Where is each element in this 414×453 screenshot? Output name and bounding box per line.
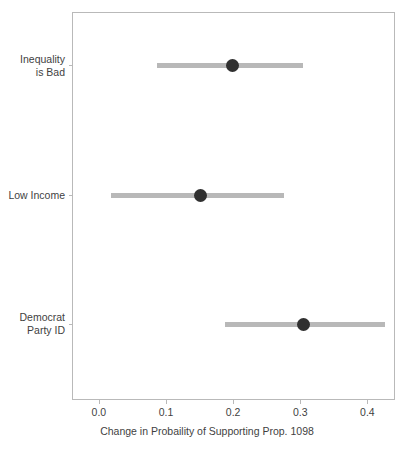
estimate-point — [297, 318, 310, 331]
y-tick-label: Inequalityis Bad — [20, 53, 65, 79]
x-tick-mark — [99, 400, 100, 404]
x-tick-label: 0.4 — [360, 406, 375, 419]
y-tick-label: DemocratParty ID — [19, 311, 65, 337]
x-tick-label: 0.1 — [159, 406, 174, 419]
y-tick-label: Low Income — [8, 189, 65, 202]
x-axis: 0.00.10.20.30.4 — [72, 400, 395, 426]
x-axis-title: Change in Probaility of Supporting Prop.… — [0, 425, 414, 437]
y-tick-label-line: Democrat — [19, 311, 65, 324]
x-tick-mark — [166, 400, 167, 404]
plot-area: Inequalityis BadLow IncomeDemocratParty … — [72, 12, 395, 400]
y-tick-label-line: is Bad — [20, 66, 65, 79]
y-tick-mark — [69, 324, 73, 325]
x-tick-mark — [367, 400, 368, 404]
x-tick-mark — [233, 400, 234, 404]
y-tick-mark — [69, 195, 73, 196]
dot-and-whisker-chart: Inequalityis BadLow IncomeDemocratParty … — [0, 0, 414, 453]
estimate-point — [194, 189, 207, 202]
x-tick-mark — [300, 400, 301, 404]
y-tick-label-line: Low Income — [8, 189, 65, 202]
y-tick-label-line: Party ID — [19, 324, 65, 337]
x-tick-label: 0.2 — [226, 406, 241, 419]
x-tick-label: 0.3 — [293, 406, 308, 419]
x-tick-label: 0.0 — [92, 406, 107, 419]
y-tick-label-line: Inequality — [20, 53, 65, 66]
y-tick-mark — [69, 65, 73, 66]
estimate-point — [226, 59, 239, 72]
